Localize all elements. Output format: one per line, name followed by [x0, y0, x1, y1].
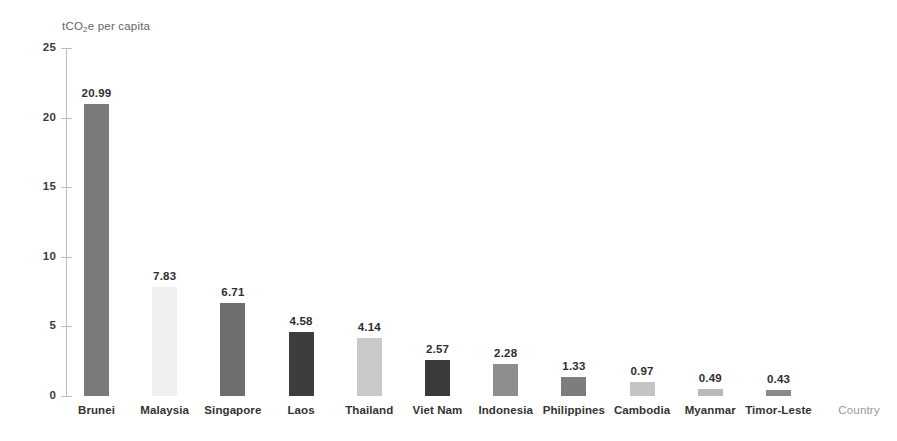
x-axis-title: Country [838, 404, 880, 416]
plot-area: 20.99Brunei7.83Malaysia6.71Singapore4.58… [0, 0, 897, 441]
bar[interactable] [766, 390, 791, 396]
bar[interactable] [220, 303, 245, 396]
bar[interactable] [289, 332, 314, 396]
bar-value-label: 0.49 [675, 372, 745, 384]
bar-value-label: 4.14 [334, 321, 404, 333]
bar-value-label: 20.99 [62, 87, 132, 99]
bar-value-label: 4.58 [266, 315, 336, 327]
bar-value-label: 0.97 [607, 365, 677, 377]
bar[interactable] [152, 287, 177, 396]
bar-value-label: 1.33 [539, 360, 609, 372]
bar[interactable] [630, 382, 655, 396]
bar[interactable] [561, 377, 586, 396]
bar[interactable] [357, 338, 382, 396]
bar-value-label: 6.71 [198, 286, 268, 298]
bar-value-label: 0.43 [744, 373, 814, 385]
bar[interactable] [493, 364, 518, 396]
x-axis-category-label: Timor-Leste [731, 404, 827, 416]
bar-value-label: 2.28 [471, 347, 541, 359]
bar[interactable] [425, 360, 450, 396]
bar-value-label: 2.57 [403, 343, 473, 355]
bar[interactable] [698, 389, 723, 396]
bar-value-label: 7.83 [130, 270, 200, 282]
bar[interactable] [84, 104, 109, 396]
bar-chart: tCO2e per capita 0510152025 20.99Brunei7… [0, 0, 897, 441]
